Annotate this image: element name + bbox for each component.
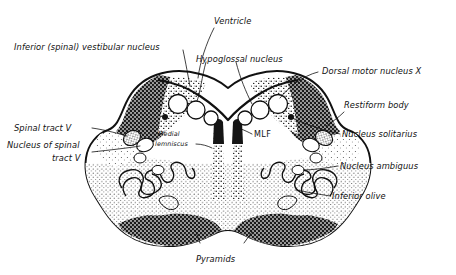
label-inferior-vestibular-nucleus: Inferior (spinal) vestibular nucleus [14,42,160,52]
dorsal-motor-nucleus-x-left [169,95,188,114]
nucleus-ambiguus-right [292,165,304,174]
hypoglossal-nucleus-left [187,101,205,119]
pyramid-left [118,213,222,246]
midline-circle-right [238,111,252,125]
midline-circle-left [204,111,218,125]
label-medial-lemniscus-line2: lemniscus [155,140,188,148]
label-nucleus-ambiguus: Nucleus ambiguus [340,161,419,171]
medulla-cross-section-figure: Ventricle Inferior (spinal) vestibular n… [0,0,456,275]
label-pyramids: Pyramids [196,254,236,264]
hypoglossal-nucleus-right [251,101,269,119]
nucleus-ambiguus-left [152,165,164,174]
label-nucleus-of-spinal-tract-v-line1: Nucleus of spinal [7,140,80,150]
label-hypoglossal-nucleus: Hypoglossal nucleus [196,54,283,64]
dorsal-motor-nucleus-x-right [269,95,288,114]
label-inferior-olive: Inferior olive [332,191,386,201]
label-medial-lemniscus-line1: Medial [158,130,180,138]
pyramid-right [234,213,338,246]
medulla-specimen [80,71,376,253]
accessory-oval-left [134,153,146,163]
label-ventricle: Ventricle [214,16,251,26]
label-nucleus-of-spinal-tract-v-line2: tract V [52,153,82,163]
leader-ventricle [198,28,214,78]
nucleus-solitarius-left [162,114,168,120]
label-dorsal-motor-nucleus-x: Dorsal motor nucleus X [322,66,422,76]
label-restiform-body: Restiform body [344,100,409,110]
label-spinal-tract-v: Spinal tract V [14,123,73,133]
accessory-oval-right [310,153,322,163]
nucleus-solitarius-right [288,114,294,120]
label-mlf: MLF [254,130,271,139]
label-nucleus-solitarius: Nucleus solitarius [342,129,418,139]
